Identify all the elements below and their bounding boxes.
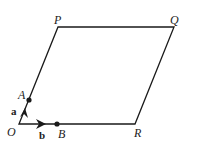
arrow-a-icon — [20, 108, 28, 118]
label-O: O — [7, 125, 16, 139]
label-R: R — [133, 126, 142, 140]
label-Q: Q — [170, 13, 179, 27]
point-A — [26, 97, 31, 102]
label-P: P — [53, 13, 62, 27]
parallelogram-OPQR — [19, 27, 174, 124]
point-B — [54, 121, 59, 126]
label-B: B — [58, 127, 66, 141]
label-vector-a: a — [11, 105, 17, 117]
parallelogram-diagram: P Q A O B R a b — [0, 0, 197, 149]
label-vector-b: b — [39, 129, 45, 141]
label-A: A — [17, 88, 26, 102]
